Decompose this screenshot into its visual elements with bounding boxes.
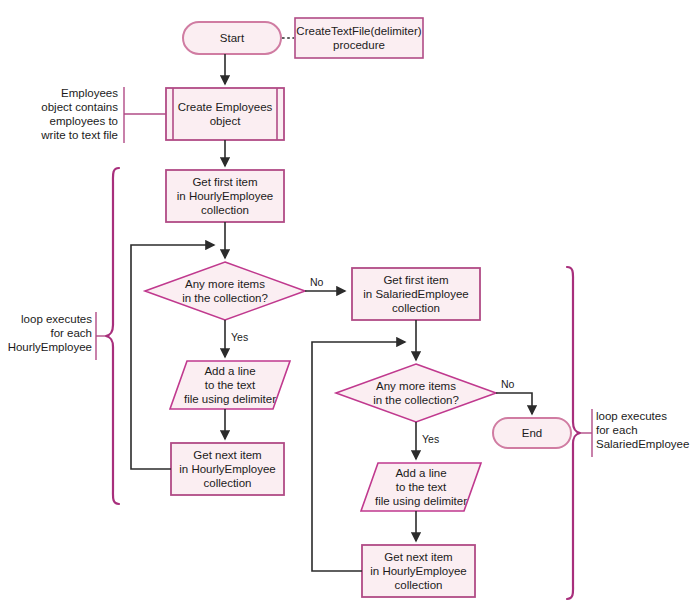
node-decision-salaried-shape — [336, 364, 496, 422]
node-get-first-salaried-shape — [352, 268, 480, 320]
node-get-next-hourly-shape — [171, 443, 284, 495]
node-start-shape — [183, 22, 281, 54]
node-create-employees-shape — [166, 88, 284, 140]
node-end-shape — [493, 418, 571, 448]
flowchart-diagram: Start CreateTextFile(delimiter) procedur… — [0, 0, 690, 603]
node-procedure-note-shape — [295, 18, 423, 58]
node-add-line-hourly-shape — [170, 361, 290, 409]
flowchart-canvas — [0, 0, 690, 603]
node-get-first-hourly-shape — [166, 170, 284, 222]
brace-hourly-loop — [106, 168, 119, 504]
node-decision-hourly-shape — [145, 262, 305, 320]
node-get-next-salaried-shape — [362, 545, 475, 597]
node-add-line-salaried-shape — [361, 463, 481, 511]
connector-decision-salaried-no — [496, 393, 532, 414]
